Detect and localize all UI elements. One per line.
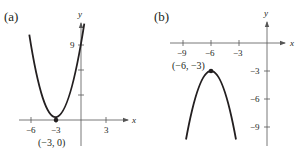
panel-a-vertex-label: (−3, 0) [38, 137, 65, 149]
panel-b-xtick-m3: −3 [233, 48, 243, 58]
panel-b: (b) x y −9 −6 −3 −3 −6 −9 (−6, −3) [154, 8, 294, 146]
panel-b-ytick-m9: −9 [250, 122, 260, 132]
panel-b-curve [186, 71, 236, 140]
panel-b-y-axis-name: y [263, 8, 268, 18]
panel-b-vertex-label: (−6, −3) [172, 60, 205, 72]
figure: (a) x y −6 −3 3 9 (−3, 0) (b) x [0, 0, 301, 159]
panel-a-curve [29, 24, 84, 117]
panel-b-x-axis-name: x [289, 38, 294, 48]
panel-a-ytick-9: 9 [70, 40, 75, 50]
panel-a-y-axis-name: y [77, 9, 82, 19]
panel-b-ytick-m6: −6 [250, 94, 260, 104]
panel-a-xtick-m6: −6 [26, 125, 36, 135]
panel-a: (a) x y −6 −3 3 9 (−3, 0) [4, 9, 136, 149]
panel-a-xtick-3: 3 [104, 125, 109, 135]
panel-b-xtick-m9: −9 [177, 48, 187, 58]
panel-b-label: (b) [154, 9, 169, 24]
panel-a-x-axis-name: x [131, 115, 136, 125]
panel-a-xtick-m3: −3 [51, 125, 61, 135]
panel-a-label: (a) [4, 9, 18, 24]
panel-b-ytick-m3: −3 [250, 66, 260, 76]
panel-b-xtick-m6: −6 [205, 48, 215, 58]
panel-a-vertex-point [54, 118, 59, 123]
panel-b-vertex-point [209, 69, 214, 74]
